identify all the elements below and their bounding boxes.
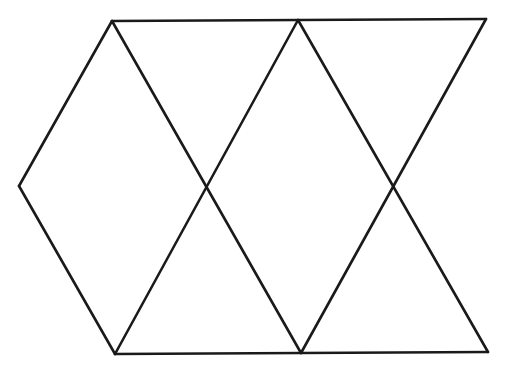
left-upper-edge xyxy=(19,21,112,186)
triangle-lattice-diagram xyxy=(0,0,511,372)
left-lower-edge xyxy=(19,186,115,354)
diagonal-4-up xyxy=(301,19,486,353)
diagram-canvas xyxy=(0,0,511,372)
diagonal-2-up xyxy=(115,20,298,354)
